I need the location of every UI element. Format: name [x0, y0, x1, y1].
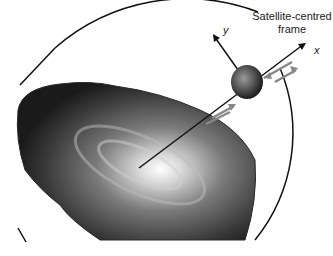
y-axis-label: y — [223, 24, 229, 36]
x-axis-arrow-icon — [298, 43, 306, 50]
galaxy-disc — [17, 82, 255, 240]
x-axis-label: x — [314, 44, 320, 56]
frame-label-line1: Satellite-centred — [248, 10, 333, 23]
satellite — [231, 65, 263, 99]
frame-label-line2: frame — [248, 23, 333, 36]
frame-label: Satellite-centred frame — [248, 10, 333, 36]
diagram-canvas — [0, 0, 333, 256]
